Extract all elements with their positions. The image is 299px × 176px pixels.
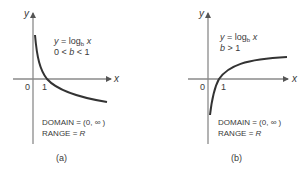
x-axis-label-a: x — [113, 73, 120, 84]
panel-b: y x 0 1 y = logb x b > 1 DOMAIN = (0, ∞ … — [188, 8, 298, 163]
origin-label-b: 0 — [200, 82, 205, 92]
figure: y x 0 1 y = logb x 0 < b < 1 DOMAIN = (0… — [0, 0, 299, 176]
range-a: RANGE = R — [42, 129, 86, 138]
equation-b: y = logb x — [219, 32, 258, 43]
origin-label-a: 0 — [25, 82, 30, 92]
caption-b: (b) — [231, 153, 242, 163]
tick-one-a: 1 — [42, 82, 47, 92]
y-axis-label-a: y — [23, 8, 30, 19]
condition-b: b > 1 — [220, 43, 240, 53]
x-axis-label-b: x — [291, 73, 298, 84]
range-b: RANGE = R — [218, 129, 262, 138]
domain-b: DOMAIN = (0, ∞ ) — [218, 118, 282, 127]
y-axis-label-b: y — [198, 8, 205, 19]
equation-a: y = logb x — [53, 36, 92, 47]
condition-a: 0 < b < 1 — [54, 47, 90, 57]
domain-a: DOMAIN = (0, ∞ ) — [42, 118, 106, 127]
tick-one-b: 1 — [221, 82, 226, 92]
panel-a: y x 0 1 y = logb x 0 < b < 1 DOMAIN = (0… — [13, 8, 120, 163]
caption-a: (a) — [56, 153, 67, 163]
